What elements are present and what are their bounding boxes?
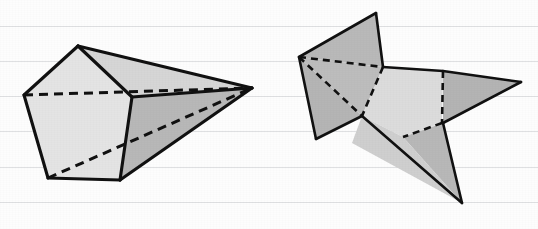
- figure-canvas: [0, 0, 538, 229]
- solids-drawing-svg: [0, 0, 538, 229]
- left-figure-pentagon-bottom-edge: [48, 178, 120, 180]
